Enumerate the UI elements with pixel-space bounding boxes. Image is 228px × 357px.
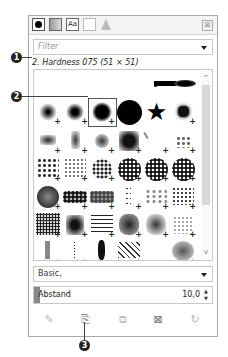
refresh-brushes-icon[interactable]: ↻ <box>187 312 203 328</box>
brush-icon[interactable] <box>32 18 45 31</box>
spacing-slider[interactable]: Abstand 10,0 ▲ ▼ <box>33 286 213 304</box>
scroll-up-icon[interactable]: ^ <box>201 73 211 83</box>
tab-menu-icon[interactable]: ⊠ <box>202 20 213 31</box>
callout-line <box>22 96 88 97</box>
brush-thumb[interactable]: + <box>62 184 89 211</box>
brush-thumb[interactable] <box>116 99 143 126</box>
brush-thumb[interactable]: + <box>35 240 62 261</box>
brush-thumb[interactable]: + <box>143 128 170 155</box>
brush-thumb[interactable]: + <box>62 156 89 183</box>
duplicate-brush-icon[interactable]: ⧉ <box>115 312 131 328</box>
brush-thumb[interactable]: + <box>143 184 170 211</box>
tool-preset-dropdown[interactable]: Basic, <box>33 266 213 282</box>
brush-thumb[interactable]: + <box>116 240 143 261</box>
scroll-thumb[interactable] <box>202 85 210 205</box>
callout-line <box>84 322 85 340</box>
callout-line <box>22 57 32 58</box>
brush-thumb[interactable] <box>173 72 200 99</box>
chevron-down-icon[interactable] <box>201 46 207 50</box>
brush-thumb[interactable]: + <box>35 99 62 126</box>
filter-placeholder: Filter <box>38 42 58 51</box>
brush-thumb[interactable]: + <box>116 128 143 155</box>
brush-thumb-selected[interactable]: + <box>89 99 116 126</box>
brush-thumb[interactable]: + <box>62 212 89 239</box>
brush-thumb[interactable] <box>143 240 170 261</box>
brush-thumb[interactable]: + <box>116 156 143 183</box>
brush-thumb[interactable]: + <box>89 156 116 183</box>
brush-thumb[interactable]: + <box>170 128 197 155</box>
filter-dropdown[interactable]: Filter <box>33 39 213 55</box>
document-icon[interactable] <box>83 18 96 31</box>
brush-thumb[interactable]: + <box>170 156 197 183</box>
dock-tab-bar: Aa ⊠ <box>29 16 217 35</box>
brush-grid[interactable]: + + + ★ + + + + + + + + + + + + + + + + … <box>33 69 213 261</box>
brush-thumb[interactable]: + <box>35 212 62 239</box>
callout-1: 1 <box>11 52 22 63</box>
pattern-icon[interactable] <box>49 18 62 31</box>
brush-thumb[interactable]: + <box>89 184 116 211</box>
spacing-label: Abstand <box>38 290 71 299</box>
brush-thumb[interactable]: + <box>116 212 143 239</box>
spacing-spinner[interactable]: ▲ ▼ <box>202 288 210 302</box>
brush-thumb[interactable]: + <box>170 240 197 261</box>
brush-thumb[interactable]: + <box>116 184 143 211</box>
selected-brush-name: 2. Hardness 075 (51 × 51) <box>32 58 139 67</box>
brush-thumb[interactable]: + <box>35 128 62 155</box>
brush-thumb[interactable]: + <box>62 99 89 126</box>
brush-thumb[interactable]: + <box>35 184 62 211</box>
brush-thumb[interactable]: + <box>143 156 170 183</box>
preset-value: Basic, <box>38 269 62 278</box>
callout-2: 2 <box>11 91 22 102</box>
callout-3: 3 <box>79 340 90 351</box>
scroll-down-icon[interactable]: v <box>201 247 211 257</box>
brush-thumb[interactable]: + <box>62 128 89 155</box>
brush-thumb[interactable]: + <box>89 128 116 155</box>
edit-brush-icon[interactable]: ✎ <box>41 312 57 328</box>
brush-thumb[interactable]: + <box>35 156 62 183</box>
spin-up-icon[interactable]: ▲ <box>202 288 210 295</box>
brush-thumb[interactable]: + <box>62 240 89 261</box>
brush-thumb[interactable]: + <box>89 212 116 239</box>
brushes-panel: Aa ⊠ Filter 2. Hardness 075 (51 × 51) + … <box>28 15 218 337</box>
chevron-down-icon[interactable] <box>201 273 207 277</box>
brush-thumb[interactable] <box>89 240 116 261</box>
brush-actions-bar: ✎ ⎘ ⧉ ⊠ ↻ <box>29 309 217 331</box>
brush-grid-scrollbar[interactable]: ^ v <box>201 71 211 259</box>
delete-brush-icon[interactable]: ⊠ <box>150 312 166 328</box>
star-icon[interactable]: ★ <box>143 99 170 126</box>
new-brush-icon[interactable]: ⎘ <box>77 312 93 328</box>
brush-thumb[interactable]: + <box>143 212 170 239</box>
spacing-value[interactable]: 10,0 <box>182 290 200 299</box>
brush-thumb[interactable]: + <box>170 99 197 126</box>
gradient-icon[interactable] <box>100 18 112 31</box>
brush-thumb[interactable]: + <box>170 212 197 239</box>
font-icon[interactable]: Aa <box>66 18 79 31</box>
spin-down-icon[interactable]: ▼ <box>202 295 210 302</box>
brush-thumb[interactable]: + <box>170 184 197 211</box>
brush-thumb[interactable] <box>146 72 176 99</box>
